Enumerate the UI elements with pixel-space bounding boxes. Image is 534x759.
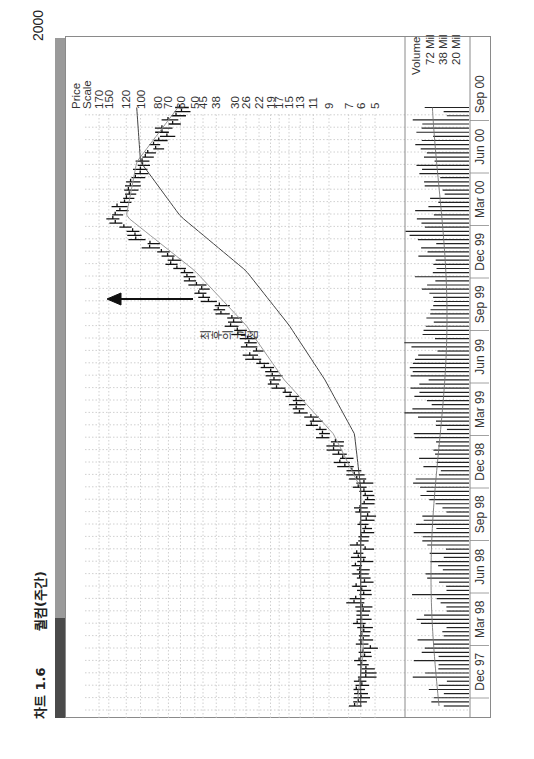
price-grid [85,113,469,718]
volume-title: Volume [410,37,422,75]
x-axis-label: Jun 99 [473,331,487,384]
x-axis-label: Sep 00 [473,68,487,121]
short-moving-average [127,108,364,707]
price-tick: 38 [211,96,222,109]
volume-bars [404,108,469,707]
band-light [55,38,65,618]
figure-number: 차트 1.6 [30,667,49,719]
x-axis-label: Dec 99 [473,226,487,279]
volume-tick-20: 20 Mil [450,34,462,65]
long-moving-average [137,108,361,707]
price-scale-title-2: Scale [82,80,93,109]
annotation-arrow [107,293,193,305]
price-volume-chart [65,36,491,718]
price-tick: 5 [370,103,381,109]
price-tick: 22 [254,96,265,109]
x-axis-label: Dec 97 [473,646,487,699]
price-tick: 120 [121,90,132,109]
price-tick: 45 [198,96,209,109]
x-axis-label: Sep 99 [473,278,487,331]
annotation-label: 최후의 고점 [200,329,259,349]
volume-tick-38: 38 Mil [437,34,449,65]
x-axis-label: Mar 99 [473,383,487,436]
chart-title: 퀄컴(주간) [30,571,49,631]
price-tick: 7 [344,103,355,109]
price-tick: 13 [295,96,306,109]
price-tick: 150 [104,90,115,109]
volume-tick-72: 72 Mil [424,34,436,65]
price-tick: 9 [324,103,335,109]
price-tick: 11 [308,97,319,109]
price-bars [106,105,378,707]
price-tick: 100 [136,90,147,109]
x-axis-label: Mar 98 [473,593,487,646]
rotated-page: 차트 1.6 퀄컴(주간) 2000 [0,0,534,759]
price-tick: 60 [176,96,187,109]
price-tick: 6 [356,103,367,109]
price-tick: 26 [241,96,252,109]
x-axis-label: Mar 00 [473,173,487,226]
volume-moving-average [431,108,447,707]
x-axis-label: Dec 98 [473,436,487,489]
year-label: 2000 [30,10,46,41]
price-tick: 70 [163,96,174,109]
x-axis-label: Sep 98 [473,488,487,541]
x-axis-label: Jun 00 [473,121,487,174]
band-dark [55,618,65,718]
x-axis-label: Jun 98 [473,541,487,594]
